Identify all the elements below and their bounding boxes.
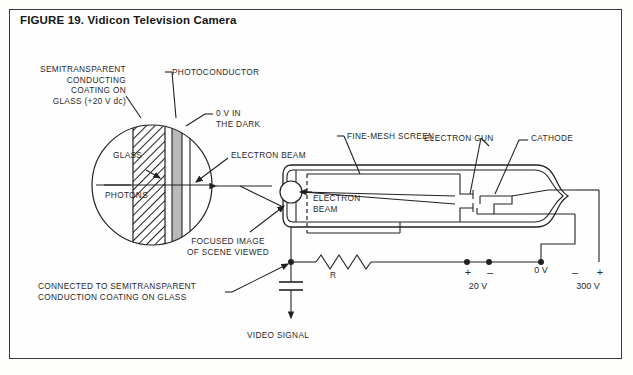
label-line-1: CONNECTED TO SEMITRANSPARENT — [38, 281, 196, 292]
label-line-3: COATING ON — [14, 85, 126, 96]
label-electron-beam-detail: ELECTRON BEAM — [231, 150, 306, 161]
label-line-1: ELECTRON — [313, 193, 361, 204]
label-video-signal: VIDEO SIGNAL — [247, 330, 309, 341]
label-connected-to-coating: CONNECTED TO SEMITRANSPARENT CONDUCTION … — [38, 281, 196, 302]
figure-title: FIGURE 19. Vidicon Television Camera — [20, 14, 237, 26]
label-line-2: OF SCENE VIEWED — [178, 247, 278, 258]
value-0v: 0 V — [521, 265, 561, 275]
label-resistor: R — [330, 270, 336, 281]
label-zero-volt-dark: 0 V IN THE DARK — [216, 108, 260, 129]
figure-border — [9, 9, 622, 359]
label-electron-beam-tube: ELECTRON BEAM — [313, 193, 361, 214]
value-300v: 300 V — [561, 281, 615, 291]
label-line-1: SEMITRANSPARENT — [14, 64, 126, 75]
label-cathode: CATHODE — [531, 133, 573, 144]
label-fine-mesh-screen: FINE-MESH SCREEN — [347, 131, 434, 142]
sign-300v-plus: + — [593, 266, 607, 278]
sign-20v-plus: + — [461, 266, 475, 278]
label-line-2: CONDUCTION COATING ON GLASS — [38, 292, 196, 303]
label-line-2: CONDUCTING — [14, 75, 126, 86]
label-focused-image: FOCUSED IMAGE OF SCENE VIEWED — [178, 236, 278, 257]
label-line-2: THE DARK — [216, 119, 260, 130]
label-line-1: FOCUSED IMAGE — [178, 236, 278, 247]
label-photoconductor: PHOTOCONDUCTOR — [172, 67, 259, 78]
sign-20v-minus: – — [483, 266, 497, 278]
label-glass: GLASS — [113, 150, 142, 161]
label-photons: PHOTONS — [105, 190, 148, 201]
label-line-1: 0 V IN — [216, 108, 260, 119]
value-20v: 20 V — [451, 281, 505, 291]
label-electron-gun: ELECTRON GUN — [424, 133, 494, 144]
label-semitransparent-coating: SEMITRANSPARENT CONDUCTING COATING ON GL… — [14, 64, 126, 106]
sign-300v-minus: – — [568, 266, 582, 278]
label-line-2: BEAM — [313, 204, 361, 215]
figure-root: FIGURE 19. Vidicon Television Camera — [0, 0, 633, 375]
label-line-4: GLASS (+20 V dc) — [14, 96, 126, 107]
